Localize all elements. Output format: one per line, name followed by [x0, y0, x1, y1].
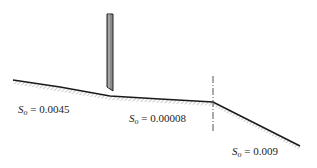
slope-label-reach-3: So = 0.009 [232, 145, 278, 159]
slope-label-reach-2: So = 0.00008 [129, 112, 186, 126]
sluice-gate-icon [107, 14, 113, 91]
channel-profile-diagram: So = 0.0045 So = 0.00008 So = 0.009 [0, 0, 317, 168]
slope-label-reach-1: So = 0.0045 [18, 103, 70, 117]
